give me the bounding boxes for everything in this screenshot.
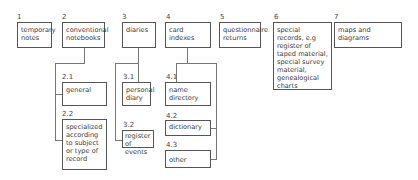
connector xyxy=(187,48,188,63)
node-specialized: specialized according to subject or type… xyxy=(62,119,107,170)
node-conventional-notebooks: conventional notebooks xyxy=(62,22,105,48)
node-questionnaire-returns: questionnaire returns xyxy=(219,22,261,48)
connector xyxy=(187,63,217,64)
node-diaries: diaries xyxy=(122,22,156,48)
node-number-4: 4 xyxy=(166,14,170,21)
node-number-1: 1 xyxy=(17,14,21,21)
node-number-6: 6 xyxy=(274,14,278,21)
node-number-4-3: 4.3 xyxy=(166,142,177,149)
node-name-directory: name directory xyxy=(165,82,211,106)
node-number-4-1: 4.1 xyxy=(166,74,177,81)
connector xyxy=(115,63,139,64)
connector xyxy=(55,63,85,64)
node-maps-and-diagrams: maps and diagrams xyxy=(334,22,402,48)
node-number-3: 3 xyxy=(122,14,126,21)
node-number-7: 7 xyxy=(334,14,338,21)
connector xyxy=(55,140,62,141)
node-number-3-2: 3.2 xyxy=(123,122,134,129)
connector xyxy=(138,48,139,63)
connector xyxy=(55,94,62,95)
node-number-2-1: 2.1 xyxy=(62,74,73,81)
connector xyxy=(176,63,188,64)
node-number-3-1: 3.1 xyxy=(123,74,134,81)
node-dictionary: dictionary xyxy=(165,120,211,136)
connector xyxy=(84,48,85,63)
node-card-indexes: card indexes xyxy=(165,22,211,48)
node-personal-diary: personal diary xyxy=(122,82,151,106)
connector xyxy=(211,159,217,160)
node-general: general xyxy=(62,82,107,106)
connector xyxy=(138,63,139,82)
connector xyxy=(55,63,56,140)
node-number-2: 2 xyxy=(62,14,66,21)
node-register-of-events: register of events xyxy=(122,130,154,148)
connector xyxy=(115,63,116,140)
node-number-2-2: 2.2 xyxy=(62,111,73,118)
connector xyxy=(115,140,122,141)
node-number-5: 5 xyxy=(220,14,224,21)
node-temporary-notes: temporary notes xyxy=(17,22,52,48)
connector xyxy=(216,63,217,160)
node-number-4-2: 4.2 xyxy=(166,113,177,120)
node-other: other xyxy=(165,150,211,168)
connector xyxy=(211,128,217,129)
node-special-records: special records, e.g register of taped m… xyxy=(273,22,332,90)
